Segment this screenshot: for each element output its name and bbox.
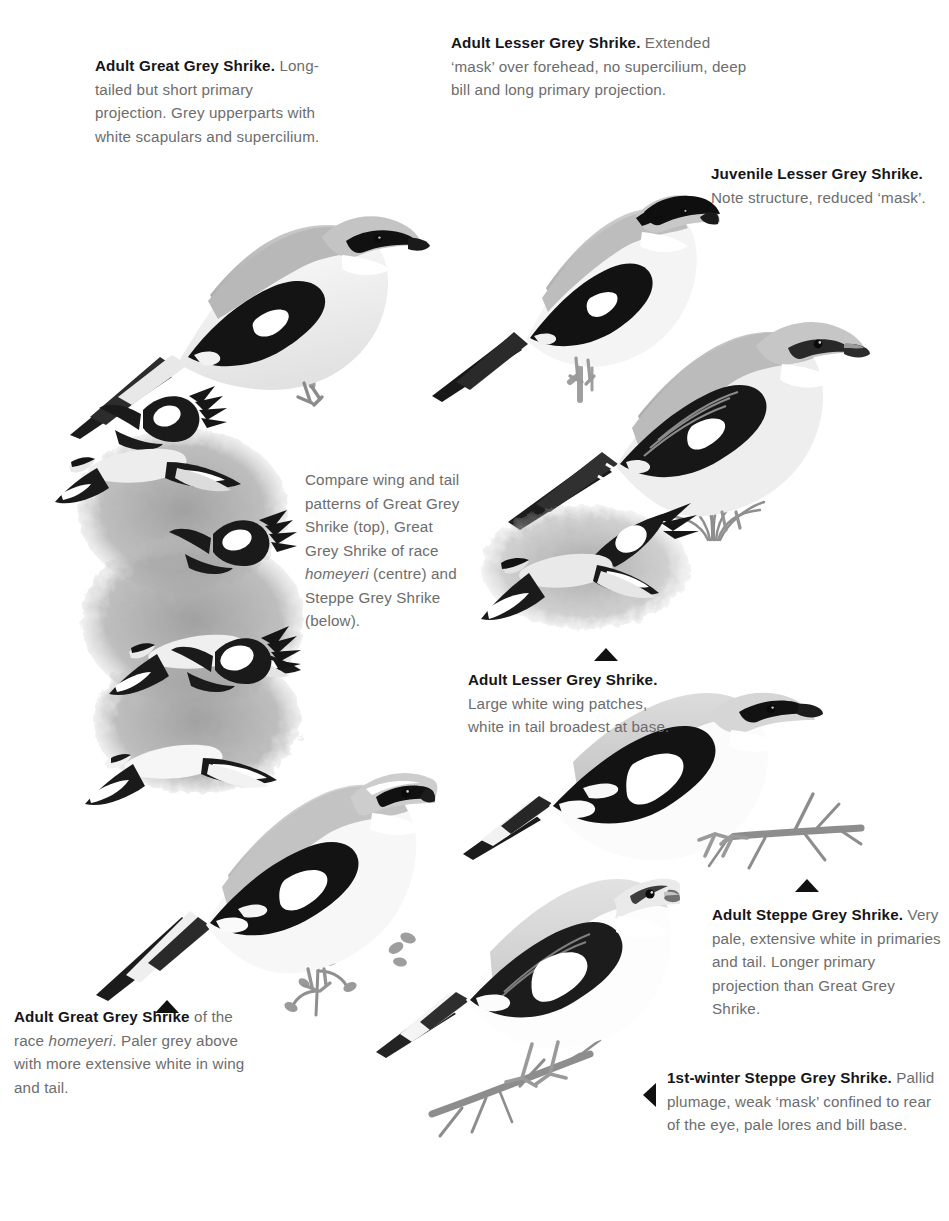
caption-adult-great-grey-shrike: Adult Great Grey Shrike. Long-tailed but… (95, 54, 327, 148)
caption-italic-race: homeyeri (305, 565, 369, 582)
marker-triangle-lesser-grey-flight (594, 648, 618, 661)
caption-adult-lesser-grey-shrike-flight: Adult Lesser Grey Shrike. Large white wi… (468, 668, 670, 739)
illustration-plate: Adult Great Grey Shrike. Long-tailed but… (0, 0, 949, 1221)
caption-lead: Adult Lesser Grey Shrike. (468, 671, 658, 688)
caption-lead: Adult Great Grey Shrike. (95, 57, 275, 74)
marker-triangle-steppe-adult (795, 879, 819, 892)
marker-triangle-first-winter-steppe (643, 1083, 656, 1107)
caption-adult-steppe-grey-shrike: Adult Steppe Grey Shrike. Very pale, ext… (712, 903, 942, 1021)
caption-lead: Juvenile Lesser Grey Shrike. (711, 165, 923, 182)
perched-first-winter-steppe-grey-shrike (380, 842, 680, 1154)
caption-body: Compare wing and tail patterns of Great … (305, 471, 459, 559)
caption-lead: Adult Steppe Grey Shrike. (712, 906, 903, 923)
caption-compare-wing-and-tail: Compare wing and tail patterns of Great … (305, 468, 467, 633)
caption-adult-lesser-grey-shrike-top: Adult Lesser Grey Shrike. Extended ‘mask… (451, 31, 751, 102)
caption-body: Large white wing patches, white in tail … (468, 695, 669, 736)
caption-adult-great-grey-shrike-homeyeri: Adult Great Grey Shrike of the race home… (14, 1005, 249, 1099)
flight-adult-lesser-grey-shrike (465, 495, 700, 655)
caption-lead: 1st-winter Steppe Grey Shrike. (667, 1069, 892, 1086)
marker-triangle-great-grey-homeyeri (155, 1000, 179, 1013)
caption-juvenile-lesser-grey-shrike: Juvenile Lesser Grey Shrike. Note struct… (711, 162, 929, 209)
caption-first-winter-steppe-grey-shrike: 1st-winter Steppe Grey Shrike. Pallid pl… (667, 1066, 937, 1137)
caption-body: Note structure, reduced ‘mask’. (711, 189, 926, 206)
caption-italic-race: homeyeri (49, 1032, 113, 1049)
caption-lead: Adult Lesser Grey Shrike. (451, 34, 641, 51)
